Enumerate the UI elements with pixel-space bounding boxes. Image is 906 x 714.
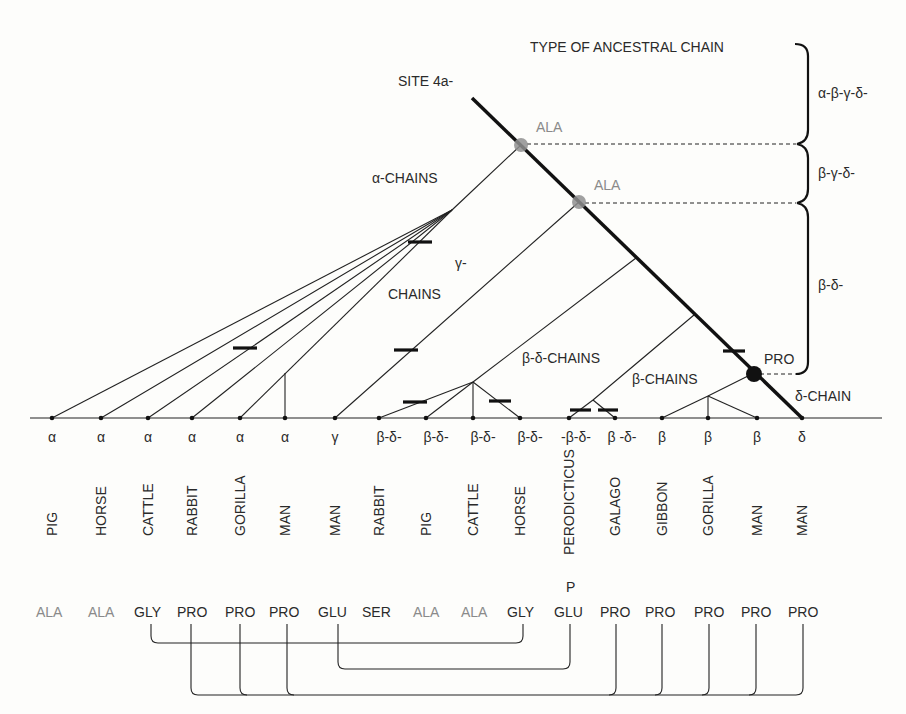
svg-text:β -δ-: β -δ- [607,429,636,445]
svg-text:α: α [281,429,289,445]
residue-row: ALA ALA GLY PRO PRO PRO GLU SER ALA ALA … [36,579,818,620]
gamma-label-1: γ- [455,255,467,271]
ala-node-1 [514,138,528,152]
svg-text:β-δ-: β-δ- [517,429,543,445]
beta-delta-chains-label: β-δ-CHAINS [522,350,600,366]
svg-text:SER: SER [362,604,391,620]
svg-text:GLY: GLY [507,604,535,620]
svg-text:β-δ-: β-δ- [376,429,402,445]
type-alpha-beta-gamma-delta: α-β-γ-δ- [818,85,868,101]
pro-label: PRO [764,351,794,367]
glu-superscript: P [566,579,575,595]
chain-type-row: α α α α α α γ β-δ- β-δ- β-δ- β-δ- -β-δ- … [48,429,806,445]
svg-text:GORILLA: GORILLA [700,475,716,536]
alpha-chains-label: α-CHAINS [372,170,438,186]
svg-text:β: β [753,429,761,445]
svg-text:PRO: PRO [788,604,818,620]
svg-text:MAN: MAN [277,505,293,536]
svg-text:MAN: MAN [794,505,810,536]
svg-text:α: α [97,429,105,445]
svg-text:ALA: ALA [88,604,115,620]
svg-text:PRO: PRO [741,604,771,620]
alpha-clade [52,145,521,418]
svg-text:-β-δ-: -β-δ- [561,429,591,445]
svg-text:RABBIT: RABBIT [371,485,387,536]
gamma-label-2: CHAINS [388,286,441,302]
title-label: TYPE OF ANCESTRAL CHAIN [530,39,724,55]
svg-text:GLU: GLU [554,604,583,620]
svg-text:β-δ-: β-δ- [470,429,496,445]
ala-node-2 [572,195,586,209]
svg-text:ALA: ALA [36,604,63,620]
svg-text:GALAGO: GALAGO [607,477,623,536]
svg-text:PRO: PRO [177,604,207,620]
svg-text:RABBIT: RABBIT [184,485,200,536]
svg-text:α: α [236,429,244,445]
pro-node [746,366,762,382]
svg-text:β-δ-: β-δ- [423,429,449,445]
ancestral-type-braces [795,44,808,374]
svg-text:α: α [144,429,152,445]
svg-text:PRO: PRO [225,604,255,620]
svg-text:β: β [658,429,666,445]
svg-text:ALA: ALA [413,604,440,620]
svg-text:GLU: GLU [318,604,347,620]
svg-text:GORILLA: GORILLA [232,475,248,536]
site-label: SITE 4a- [398,73,454,89]
species-row: PIG HORSE CATTLE RABBIT GORILLA MAN MAN … [44,449,810,555]
svg-text:α: α [48,429,56,445]
beta-delta-clade [379,258,694,418]
svg-text:CATTLE: CATTLE [465,483,481,536]
svg-text:HORSE: HORSE [93,486,109,536]
svg-text:PIG: PIG [44,512,60,536]
type-beta-gamma-delta: β-γ-δ- [818,165,855,181]
svg-text:PRO: PRO [600,604,630,620]
svg-text:PERODICTICUS: PERODICTICUS [561,449,577,555]
svg-text:MAN: MAN [749,505,765,536]
svg-text:MAN: MAN [327,505,343,536]
type-beta-delta: β-δ- [818,277,844,293]
ala-label-1: ALA [536,119,563,135]
svg-text:ALA: ALA [461,604,488,620]
ala-label-2: ALA [594,177,621,193]
svg-text:HORSE: HORSE [512,486,528,536]
delta-chain-label: δ-CHAIN [795,388,851,404]
svg-text:GLY: GLY [134,604,162,620]
svg-text:PIG: PIG [418,512,434,536]
beta-chains-label: β-CHAINS [632,371,698,387]
svg-text:δ: δ [798,429,806,445]
residue-connectors [151,624,803,695]
svg-text:β: β [704,429,712,445]
svg-text:CATTLE: CATTLE [140,483,156,536]
svg-text:GIBBON: GIBBON [654,482,670,536]
svg-text:α: α [188,429,196,445]
svg-text:PRO: PRO [694,604,724,620]
svg-text:PRO: PRO [645,604,675,620]
svg-text:γ: γ [332,429,339,445]
phylogeny-diagram: TYPE OF ANCESTRAL CHAIN SITE 4a- α-β-γ-δ… [0,0,906,714]
svg-text:PRO: PRO [269,604,299,620]
gamma-clade [335,202,579,418]
